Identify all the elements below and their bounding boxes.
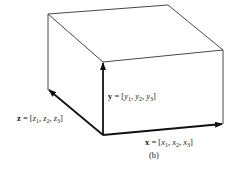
figure-caption: (b) xyxy=(149,150,159,160)
x-vector-arrow xyxy=(103,124,222,135)
top-front-edge xyxy=(103,50,223,62)
x-vector-label: x = [x1, x2, x3] xyxy=(145,137,193,148)
top-right-edge xyxy=(168,5,223,50)
parallelepiped-diagram: y = [y1, y2, y3] z = [z1, z2, z3] x = [x… xyxy=(0,0,237,170)
z-vector-label: z = [z1, z2, z3] xyxy=(17,113,63,124)
z-vector-arrow xyxy=(49,90,103,135)
box-edges xyxy=(48,5,223,124)
y-vector-label: y = [y1, y2, y3] xyxy=(108,91,156,102)
top-left-edge xyxy=(48,14,103,62)
top-back-edge xyxy=(48,5,168,14)
